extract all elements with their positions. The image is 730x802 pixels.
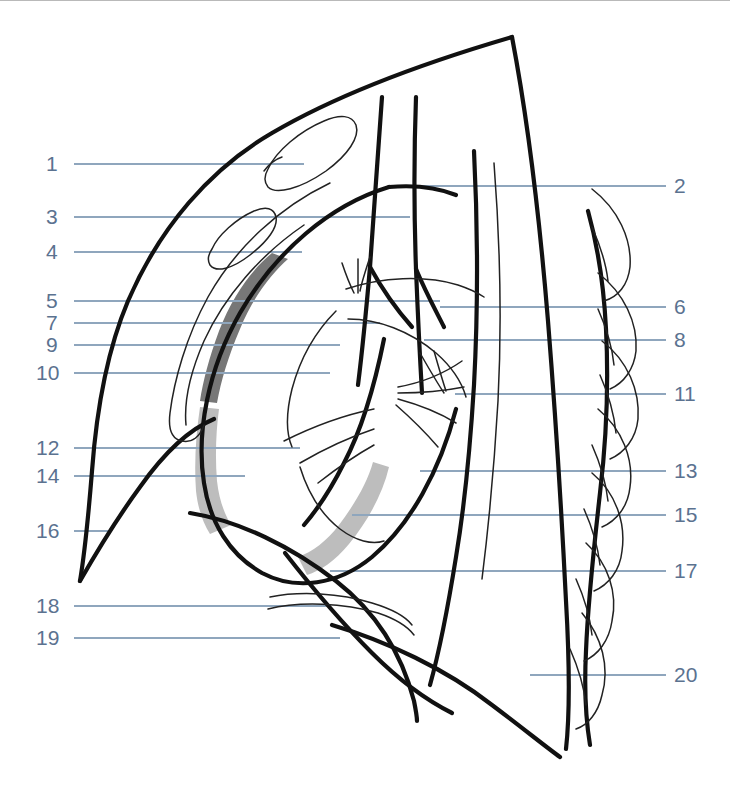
label-9[interactable]: 9 — [46, 334, 58, 355]
trachea-anterior-wall — [358, 97, 382, 385]
scapula-outline — [80, 419, 214, 581]
label-12[interactable]: 12 — [36, 437, 59, 458]
pulmonary-vein-branch-2 — [300, 429, 374, 463]
label-16[interactable]: 16 — [36, 520, 59, 541]
label-8[interactable]: 8 — [674, 329, 686, 350]
left-atrium-contour — [288, 311, 337, 447]
pulmonary-vessel-fan-2 — [398, 387, 464, 393]
label-2[interactable]: 2 — [674, 175, 686, 196]
label-4[interactable]: 4 — [46, 241, 58, 262]
anatomy-figure: 134579101214161819 2681113151720 — [0, 0, 730, 802]
aortic-arch — [389, 186, 456, 195]
vertebral-anterior-margin — [512, 37, 569, 749]
label-15[interactable]: 15 — [674, 504, 697, 525]
retrosternal-line — [482, 163, 500, 579]
trachea-posterior-wall — [415, 97, 423, 393]
label-1[interactable]: 1 — [46, 153, 58, 174]
label-10[interactable]: 10 — [36, 362, 59, 383]
label-14[interactable]: 14 — [36, 465, 59, 486]
anatomy-drawing — [0, 1, 730, 802]
label-19[interactable]: 19 — [36, 627, 59, 648]
label-18[interactable]: 18 — [36, 595, 59, 616]
left-main-bronchus — [370, 267, 412, 327]
cardiac-silhouette — [202, 187, 456, 583]
label-5[interactable]: 5 — [46, 290, 58, 311]
label-3[interactable]: 3 — [46, 206, 58, 227]
label-7[interactable]: 7 — [46, 312, 58, 333]
anterior-chest-wall-outline — [80, 37, 512, 581]
pulmonary-vessel-fan-3 — [398, 399, 456, 423]
pulmonary-vessel-fan-1 — [398, 361, 462, 387]
pulmonary-vein-branch-3 — [318, 445, 374, 483]
label-13[interactable]: 13 — [674, 460, 697, 481]
label-20[interactable]: 20 — [674, 664, 697, 685]
diaphragm-second-leaf — [285, 553, 452, 713]
rib-7 — [576, 613, 605, 729]
label-17[interactable]: 17 — [674, 560, 697, 581]
label-6[interactable]: 6 — [674, 296, 686, 317]
anterior-soft-tissue-border — [170, 183, 331, 441]
label-11[interactable]: 11 — [674, 383, 696, 404]
anatomy-outlines-thick — [80, 37, 607, 757]
